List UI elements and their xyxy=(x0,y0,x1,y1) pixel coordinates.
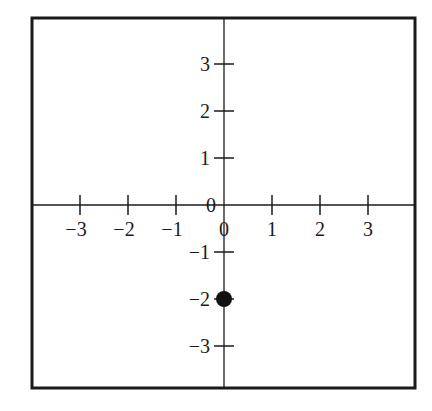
data-point xyxy=(216,291,232,307)
coordinate-plane: −3−2−10123 −3−2−10123 xyxy=(0,0,432,411)
y-tick-label: 0 xyxy=(206,194,216,216)
y-tick-label: 1 xyxy=(200,147,210,169)
x-tick-label: 2 xyxy=(315,218,325,240)
y-tick-label: 3 xyxy=(200,53,210,75)
y-tick-label: 2 xyxy=(200,100,210,122)
x-tick-label: −2 xyxy=(113,218,134,240)
y-tick-label: −1 xyxy=(189,241,210,263)
x-tick-label: 3 xyxy=(363,218,373,240)
x-tick-label: −1 xyxy=(161,218,182,240)
x-axis-ticks: −3−2−10123 xyxy=(65,195,373,240)
x-tick-label: 0 xyxy=(219,218,229,240)
x-tick-label: 1 xyxy=(267,218,277,240)
y-tick-label: −3 xyxy=(189,335,210,357)
data-points xyxy=(216,291,232,307)
x-tick-label: −3 xyxy=(65,218,86,240)
y-tick-label: −2 xyxy=(189,288,210,310)
